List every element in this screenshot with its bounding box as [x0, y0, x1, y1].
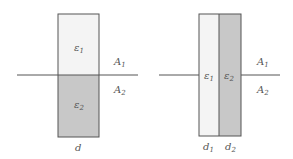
left-capacitor-figure: ε1 ε2 A1 A2 d: [17, 14, 138, 153]
area-2-label: A2: [256, 84, 269, 97]
right-capacitor-figure: ε1 ε2 A1 A2 d1 d2: [159, 14, 280, 154]
area-1-label: A1: [113, 56, 126, 69]
thickness-d2-label: d2: [225, 141, 236, 154]
thickness-d1-label: d1: [203, 141, 214, 154]
area-2-label: A2: [113, 84, 126, 97]
capacitor-diagram: ε1 ε2 A1 A2 d ε1 ε2 A1 A2 d1 d2: [0, 0, 293, 159]
thickness-d-label: d: [75, 142, 81, 153]
area-1-label: A1: [256, 56, 269, 69]
